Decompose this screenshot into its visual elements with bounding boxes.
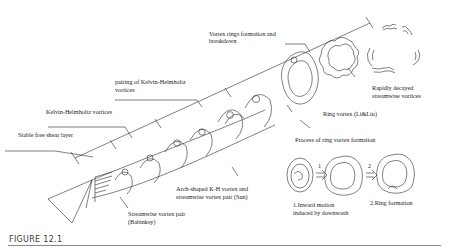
label-process: Process of ring vortex formation [295, 136, 375, 143]
ring-vortex [281, 52, 318, 104]
caption-rule [8, 245, 441, 246]
label-ring-vortex: Ring vortex (Li&Liu) [323, 110, 377, 117]
step-2-ring [325, 156, 363, 195]
label-shear-layer: Stable free shear layer [18, 131, 73, 138]
label-kelvin-helmholtz: Kelvin-Helmholtz vortices [46, 108, 112, 115]
step-arrow-2 [366, 170, 377, 180]
stage-axis-line [0, 0, 75, 205]
label-step1: 1.Inward motion [293, 201, 334, 208]
label-streamwise-2: (Babinksy) [128, 218, 156, 225]
label-step2: 2.Ring formation [370, 199, 413, 206]
step-3-ring [377, 154, 415, 193]
figure-caption: FIGURE 12.1 [9, 234, 62, 244]
nozzle-shape [48, 180, 92, 223]
label-arch: Arch-shaped K-H vortex and [176, 185, 248, 192]
label-pairing-2: vortices [115, 86, 135, 93]
arch-vortex-series [115, 95, 272, 194]
label-pairing: pairing of Kelvin-Helmholtz [115, 78, 186, 85]
label-decayed: Rapidly decayed [372, 84, 413, 91]
label-streamwise: Streamwise vortex pair [128, 210, 185, 217]
step-1-ring [287, 158, 313, 192]
label-decayed-2: streamwise vortices [372, 92, 421, 99]
label-step2-number: 2 [368, 162, 371, 169]
decayed-vortex-fragments [367, 24, 419, 73]
label-step1-2: induced by downwash [293, 209, 348, 216]
label-arch-2: streamwise vortex pair (Sun) [176, 193, 248, 200]
label-vortex-rings-2: breakdown [209, 37, 237, 44]
label-step1-number: 1 [318, 162, 321, 169]
